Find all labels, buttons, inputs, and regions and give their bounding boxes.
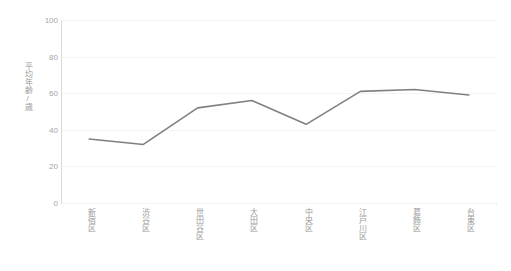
y-tick-label: 0 (32, 199, 58, 208)
y-axis-tick-labels: 100806040200 (28, 0, 58, 271)
y-tick-label: 20 (32, 162, 58, 171)
y-tick-label: 80 (32, 53, 58, 62)
x-tick-label: 江戸川区 (354, 208, 366, 240)
x-tick-label: 世田谷区 (192, 208, 204, 240)
series-line-average-age (89, 90, 469, 145)
y-tick-label: 60 (32, 89, 58, 98)
line-chart: 平均年齢/歳 100806040200 新宿区渋谷区世田谷区大田区中央区江戸川区… (0, 0, 511, 271)
y-tick-label: 100 (32, 16, 58, 25)
x-tick-label: 中央区 (300, 208, 312, 232)
plot-area (62, 20, 496, 203)
gridline (62, 203, 496, 204)
x-tick-label: 大田区 (246, 208, 258, 232)
series-line-group (62, 20, 496, 203)
x-tick-label: 渋谷区 (137, 208, 149, 232)
x-tick-label: 新宿区 (83, 208, 95, 232)
x-tick-label: 葛飾区 (409, 208, 421, 232)
y-tick-label: 40 (32, 126, 58, 135)
x-tick-label: 台東区 (463, 208, 475, 232)
x-axis-tick-labels: 新宿区渋谷区世田谷区大田区中央区江戸川区葛飾区台東区 (62, 208, 496, 266)
